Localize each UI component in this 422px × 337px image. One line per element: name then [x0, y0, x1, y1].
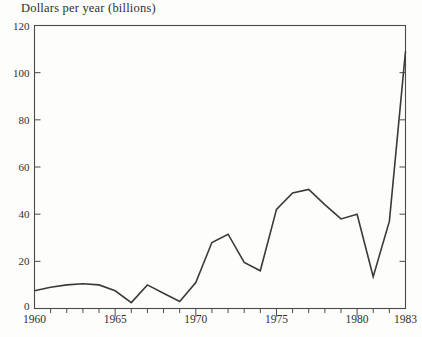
y-axis-tick-label: 60: [19, 161, 31, 173]
x-axis-tick-label: 1975: [265, 313, 288, 325]
y-axis-tick-label: 20: [19, 255, 31, 267]
line-chart-figure: 020406080100120196019651970197519801983 …: [0, 0, 422, 337]
data-series-line: [35, 51, 406, 302]
x-axis-tick-label: 1970: [184, 313, 207, 325]
x-axis-tick-label: 1965: [104, 313, 127, 325]
y-axis-tick-label: 120: [13, 20, 30, 32]
x-axis-tick-label: 1960: [23, 313, 46, 325]
chart-frame: [35, 26, 406, 309]
y-axis-tick-label: 40: [19, 208, 31, 220]
y-axis-tick-label: 80: [19, 114, 31, 126]
chart-title: Dollars per year (billions): [21, 1, 156, 16]
chart-canvas: 020406080100120196019651970197519801983: [0, 0, 422, 337]
y-axis-tick-label: 100: [13, 67, 30, 79]
x-axis-tick-label: 1980: [346, 313, 369, 325]
x-axis-tick-label: 1983: [394, 313, 417, 325]
y-axis-tick-label: 0: [24, 300, 30, 312]
